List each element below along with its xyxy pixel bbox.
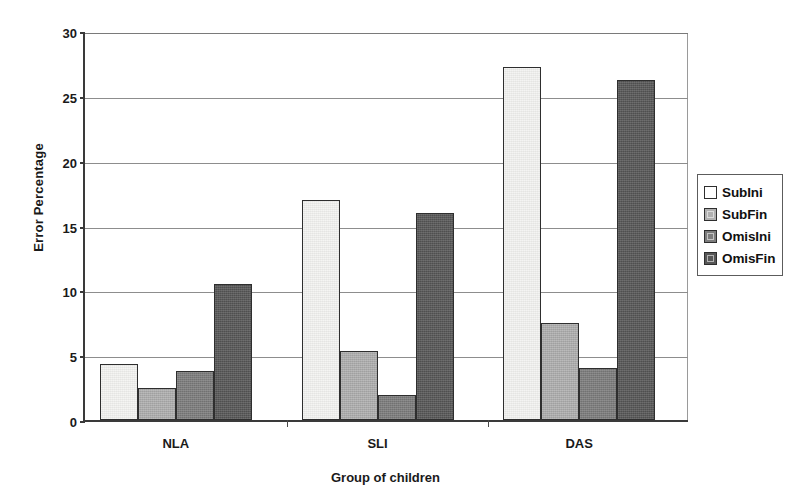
bar-group-nla	[100, 33, 252, 420]
y-tick-label: 25	[63, 90, 77, 105]
bar-das-subfin	[541, 323, 579, 420]
legend-swatch-icon-subini	[704, 186, 717, 199]
y-tick-label: 0	[70, 415, 77, 430]
legend-label: OmisIni	[722, 229, 771, 244]
bar-groups	[85, 33, 688, 420]
bar-nla-subfin	[138, 388, 176, 420]
bar-chart-figure: Error Percentage 051015202530 NLASLIDAS …	[0, 0, 807, 501]
legend-item-omisfin: OmisFin	[704, 247, 775, 269]
bar-sli-omisfin	[416, 213, 454, 420]
legend-swatch-icon-subfin	[704, 208, 717, 221]
y-tick-label: 30	[63, 26, 77, 41]
legend-label: OmisFin	[722, 251, 775, 266]
legend-swatch-icon-omisfin	[704, 252, 717, 265]
bar-group-das	[503, 33, 655, 420]
bar-das-subini	[503, 67, 541, 420]
x-category-label-nla: NLA	[162, 436, 189, 451]
bar-sli-subini	[302, 200, 340, 420]
bar-group-sli	[302, 33, 454, 420]
plot-area: 051015202530 NLASLIDAS	[83, 33, 688, 422]
bar-nla-omisini	[176, 371, 214, 420]
bar-nla-subini	[100, 364, 138, 420]
x-axis-title: Group of children	[83, 470, 688, 485]
bar-das-omisfin	[617, 80, 655, 420]
chart-legend: SubIniSubFinOmisIniOmisFin	[697, 174, 783, 276]
legend-item-subini: SubIni	[704, 181, 775, 203]
legend-item-omisini: OmisIni	[704, 225, 775, 247]
bar-sli-subfin	[340, 351, 378, 420]
legend-item-subfin: SubFin	[704, 203, 775, 225]
y-tick-label: 5	[70, 350, 77, 365]
x-category-label-sli: SLI	[367, 436, 387, 451]
x-tick-mark	[488, 420, 489, 427]
legend-label: SubIni	[722, 185, 763, 200]
y-tick-label: 15	[63, 220, 77, 235]
y-tick-label: 10	[63, 285, 77, 300]
bar-sli-omisini	[378, 395, 416, 420]
y-tick-label: 20	[63, 155, 77, 170]
legend-label: SubFin	[722, 207, 767, 222]
x-category-label-das: DAS	[565, 436, 592, 451]
y-axis-title: Error Percentage	[31, 98, 46, 298]
bar-das-omisini	[579, 368, 617, 420]
bar-nla-omisfin	[214, 284, 252, 420]
y-tick-mark	[80, 421, 85, 423]
legend-swatch-icon-omisini	[704, 230, 717, 243]
x-tick-mark	[287, 420, 288, 427]
